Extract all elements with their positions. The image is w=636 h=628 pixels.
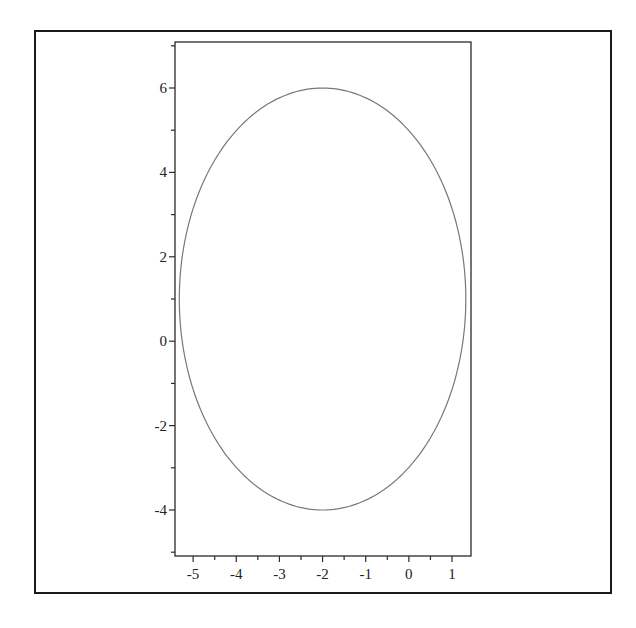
x-tick-label: 1 (448, 566, 456, 582)
y-tick-label: 0 (160, 333, 168, 349)
y-tick-label: -2 (155, 418, 168, 434)
x-tick-label: -4 (230, 566, 243, 582)
outer-frame (35, 31, 611, 593)
x-tick-label: 0 (405, 566, 413, 582)
y-axis: -4-20246 (155, 46, 176, 552)
x-tick-label: -1 (359, 566, 372, 582)
y-tick-label: 6 (160, 80, 168, 96)
x-tick-label: -3 (273, 566, 286, 582)
y-tick-label: -4 (155, 502, 168, 518)
x-tick-label: -5 (187, 566, 200, 582)
x-axis: -5-4-3-2-101 (187, 556, 456, 582)
ellipse-plot-figure: -5-4-3-2-101 -4-20246 (0, 0, 636, 628)
ellipse-curve (179, 88, 466, 510)
y-tick-label: 2 (160, 249, 168, 265)
x-tick-label: -2 (316, 566, 329, 582)
plot-area (175, 42, 471, 556)
y-tick-label: 4 (160, 164, 168, 180)
